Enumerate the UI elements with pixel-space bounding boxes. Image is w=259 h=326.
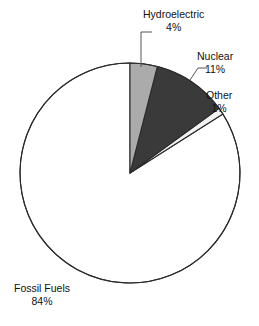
pie-chart: Hydroelectric 4% Nuclear 11% Other 1% Fo… <box>0 0 259 326</box>
slice-label-nuclear-name: Nuclear <box>197 50 233 63</box>
slice-label-hydroelectric-name: Hydroelectric <box>143 8 204 21</box>
pie-chart-canvas <box>0 0 259 326</box>
slice-label-nuclear: Nuclear 11% <box>197 50 233 76</box>
slice-label-nuclear-value: 11% <box>197 63 233 76</box>
slice-label-hydroelectric-value: 4% <box>143 21 204 34</box>
slice-label-other-name: Other <box>206 89 232 102</box>
slice-label-fossil-fuels-value: 84% <box>14 295 70 308</box>
slice-label-fossil-fuels-name: Fossil Fuels <box>14 282 70 295</box>
slice-label-hydroelectric: Hydroelectric 4% <box>143 8 204 34</box>
slice-label-fossil-fuels: Fossil Fuels 84% <box>14 282 70 308</box>
slice-label-other-value: 1% <box>206 102 232 115</box>
slice-label-other: Other 1% <box>206 89 232 115</box>
